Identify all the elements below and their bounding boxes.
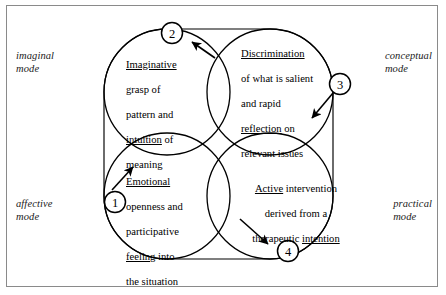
emphasis-emotional: Emotional [126, 176, 170, 187]
emphasis-reflection: reflection [241, 123, 282, 134]
emphasis-intention: intention [302, 233, 340, 244]
mode-label-conceptual: conceptual mode [385, 50, 432, 75]
marker-2-label: 2 [169, 27, 175, 41]
line-active-2: derived from a [265, 208, 327, 219]
line-emotional-2: openness and [126, 201, 183, 212]
line-discrimination-3: and rapid [241, 98, 281, 109]
marker-4-label: 4 [285, 245, 292, 259]
circle-text-emotional: Emotional openness and participative fee… [126, 163, 220, 289]
circle-text-imaginative: Imaginative grasp of pattern and intuiti… [126, 46, 218, 172]
line-emotional-3: participative [126, 226, 179, 237]
figure-canvas: 2 3 1 4 imaginal mode conceptual mode af… [0, 0, 446, 295]
line-active-3-head: therapeutic [252, 233, 299, 244]
line-active-1-tail: intervention [286, 183, 337, 194]
line-emotional-4-tail: into [158, 251, 174, 262]
line-discrimination-5: relevant issues [241, 148, 303, 159]
mode-label-practical: practical mode [393, 198, 432, 223]
emphasis-discrimination: Discrimination [241, 48, 305, 59]
line-emotional-5: the situation [126, 276, 178, 287]
line-discrimination-2: of what is salient [241, 73, 313, 84]
line-imaginative-4-tail: of [165, 134, 174, 145]
line-imaginative-2: grasp of [126, 84, 160, 95]
marker-2: 2 [162, 23, 183, 44]
mode-label-affective: affective mode [16, 198, 52, 223]
emphasis-feeling: feeling [126, 251, 155, 262]
circle-text-discrimination: Discrimination of what is salient and ra… [241, 35, 347, 161]
mode-label-imaginal: imaginal mode [16, 50, 54, 75]
circle-text-active: Active intervention derived from a thera… [236, 170, 356, 246]
marker-1: 1 [105, 192, 126, 213]
emphasis-imaginative: Imaginative [126, 59, 177, 70]
marker-1-label: 1 [112, 196, 118, 210]
line-discrimination-4-tail: on [284, 123, 295, 134]
emphasis-intuition: intuition [126, 134, 162, 145]
four-circle-diagram: 2 3 1 4 [0, 0, 446, 295]
line-imaginative-3: pattern and [126, 109, 173, 120]
emphasis-active: Active [255, 183, 283, 194]
